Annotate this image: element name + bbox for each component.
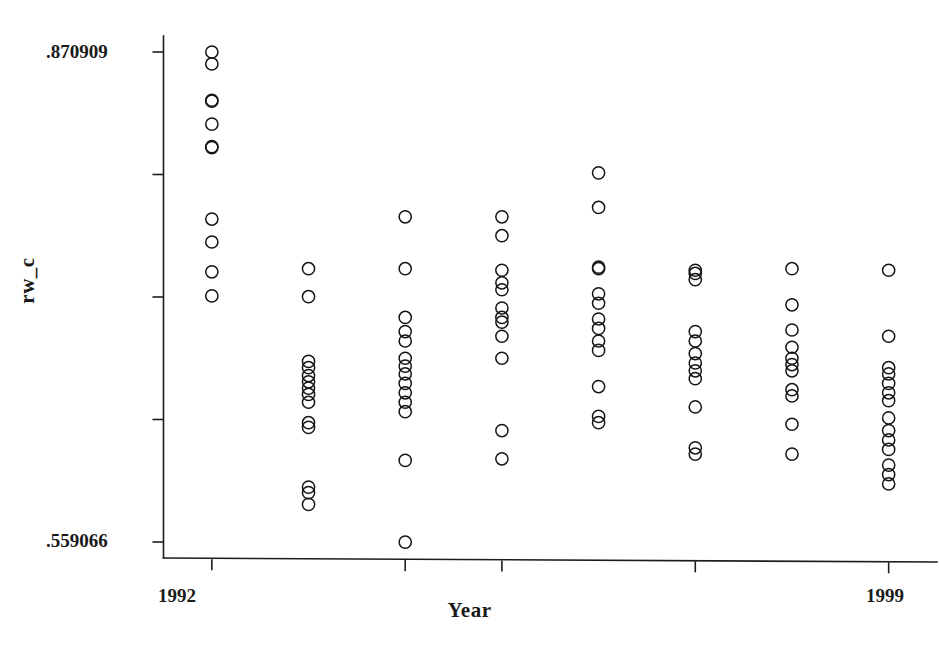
data-point [496, 277, 508, 289]
data-point [399, 311, 411, 323]
data-point [592, 201, 604, 213]
data-point [786, 418, 798, 430]
scatter-plot: .870909 .559066 1992 1999 Year rw_c [0, 0, 939, 650]
data-point [399, 335, 411, 347]
data-point [786, 324, 798, 336]
data-point [496, 211, 508, 223]
plot-canvas [0, 0, 939, 650]
data-point [399, 211, 411, 223]
data-point [689, 335, 701, 347]
data-point [592, 167, 604, 179]
data-point [496, 284, 508, 296]
data-point [302, 396, 314, 408]
x-axis-title: Year [0, 598, 939, 623]
data-point [206, 290, 218, 302]
data-point [206, 95, 218, 107]
data-point [689, 373, 701, 385]
data-point [206, 236, 218, 248]
data-point [592, 344, 604, 356]
data-point [883, 443, 895, 455]
data-point [206, 46, 218, 58]
data-point [399, 536, 411, 548]
x-axis-line [164, 558, 938, 562]
y-axis-title: rw_c [15, 241, 40, 321]
data-point [786, 299, 798, 311]
data-point [206, 266, 218, 278]
data-point [883, 395, 895, 407]
data-point [399, 406, 411, 418]
data-point [592, 380, 604, 392]
data-point [592, 297, 604, 309]
data-point [496, 230, 508, 242]
y-tick-marks [153, 52, 164, 542]
data-point [496, 352, 508, 364]
data-point [206, 58, 218, 70]
data-point [786, 263, 798, 275]
data-point [592, 322, 604, 334]
data-point [786, 448, 798, 460]
data-point [206, 118, 218, 130]
data-point [689, 401, 701, 413]
data-point [496, 330, 508, 342]
data-point [399, 263, 411, 275]
axis-group [164, 36, 938, 562]
data-point [302, 291, 314, 303]
data-point [883, 264, 895, 276]
data-markers [206, 46, 895, 548]
data-point [496, 264, 508, 276]
data-point [399, 454, 411, 466]
y-axis-tick-label-bottom: .559066 [46, 531, 108, 550]
data-point [883, 478, 895, 490]
data-point [883, 412, 895, 424]
data-point [206, 141, 218, 153]
data-point [302, 498, 314, 510]
y-axis-tick-label-top: .870909 [46, 42, 108, 61]
data-point [496, 453, 508, 465]
data-point [496, 424, 508, 436]
data-point [206, 213, 218, 225]
data-point [883, 330, 895, 342]
data-point [302, 263, 314, 275]
